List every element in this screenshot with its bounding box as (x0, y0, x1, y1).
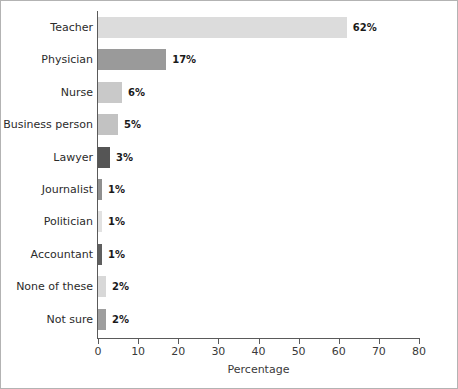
x-tick (379, 339, 380, 344)
category-label: Teacher (0, 22, 93, 34)
category-label: Nurse (0, 87, 93, 99)
bar-value-label: 2% (112, 314, 129, 326)
bar-value-label: 1% (108, 184, 125, 196)
x-tick-label: 40 (239, 345, 279, 358)
x-tick (218, 339, 219, 344)
x-tick-label: 30 (198, 345, 238, 358)
x-tick (138, 339, 139, 344)
bar-value-label: 3% (116, 152, 133, 164)
category-label: Lawyer (0, 152, 93, 164)
bar-value-label: 6% (128, 87, 145, 99)
bar (98, 17, 347, 38)
x-tick-label: 50 (279, 345, 319, 358)
category-label: Physician (0, 54, 93, 66)
x-tick-label: 20 (158, 345, 198, 358)
bar-value-label: 17% (172, 54, 196, 66)
bar (98, 49, 166, 70)
bar (98, 244, 102, 265)
x-tick (259, 339, 260, 344)
category-label: Not sure (0, 314, 93, 326)
x-tick (299, 339, 300, 344)
bar (98, 309, 106, 330)
category-label: Journalist (0, 184, 93, 196)
category-label: Accountant (0, 249, 93, 261)
x-tick-label: 70 (359, 345, 399, 358)
bar-value-label: 1% (108, 249, 125, 261)
bar-value-label: 5% (124, 119, 141, 131)
x-tick (178, 339, 179, 344)
x-tick-label: 80 (399, 345, 439, 358)
x-tick (98, 339, 99, 344)
bar (98, 147, 110, 168)
plot-area: 62%17%6%5%3%1%1%1%2%2% TeacherPhysicianN… (1, 1, 458, 389)
bar-value-label: 2% (112, 281, 129, 293)
bar-value-label: 1% (108, 216, 125, 228)
x-axis-title: Percentage (97, 363, 420, 376)
bar-value-label: 62% (353, 22, 377, 34)
bar (98, 114, 118, 135)
category-label: Politician (0, 216, 93, 228)
chart-figure: 62%17%6%5%3%1%1%1%2%2% TeacherPhysicianN… (0, 0, 458, 389)
category-label: Business person (0, 119, 93, 131)
x-tick-label: 10 (118, 345, 158, 358)
category-label: None of these (0, 281, 93, 293)
x-tick-label: 60 (319, 345, 359, 358)
bar (98, 82, 122, 103)
bar (98, 211, 102, 232)
x-tick (419, 339, 420, 344)
bar (98, 179, 102, 200)
x-tick (339, 339, 340, 344)
bar (98, 276, 106, 297)
x-tick-label: 0 (78, 345, 118, 358)
